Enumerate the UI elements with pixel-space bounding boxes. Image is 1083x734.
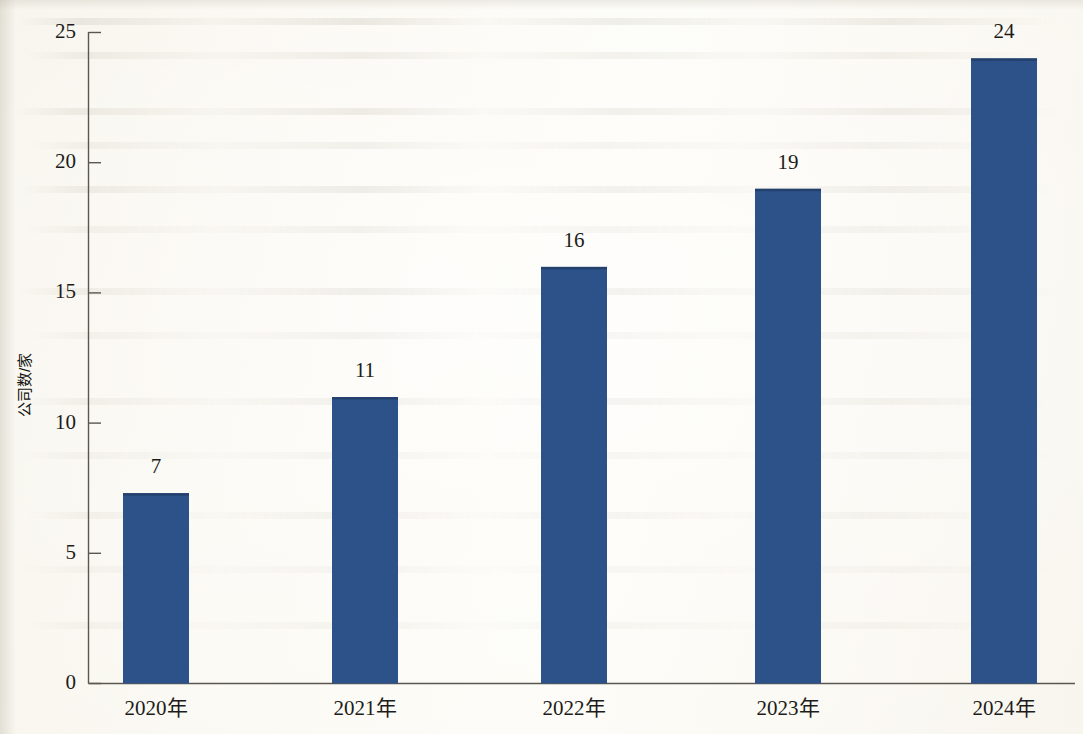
chart-plot-area: 0 5 10 15 20 25 公司数/家 xyxy=(0,0,1083,734)
bar-2021[interactable] xyxy=(332,397,398,683)
bar-rect-2022[interactable] xyxy=(541,267,607,684)
bar-2020[interactable] xyxy=(123,493,189,683)
x-label-2022: 2022年 xyxy=(543,696,606,720)
bar-value-label-2021: 11 xyxy=(355,358,375,382)
x-label-2024: 2024年 xyxy=(973,696,1036,720)
bar-rect-2021[interactable] xyxy=(332,397,398,683)
y-axis-title: 公司数/家 xyxy=(16,353,33,417)
x-label-2020: 2020年 xyxy=(125,696,188,720)
x-label-2023: 2023年 xyxy=(757,696,820,720)
y-tick-label-0: 0 xyxy=(66,670,77,694)
bar-top-edge-2021 xyxy=(332,397,398,399)
bar-rect-2020[interactable] xyxy=(123,493,189,683)
x-label-2021: 2021年 xyxy=(334,696,397,720)
bar-2022[interactable] xyxy=(541,267,607,684)
bar-top-edge-2020 xyxy=(123,493,189,495)
bar-2023[interactable] xyxy=(755,189,821,684)
y-axis-ticks xyxy=(89,33,102,684)
y-tick-label-10: 10 xyxy=(55,410,76,434)
y-tick-label-20: 20 xyxy=(55,149,76,173)
bar-value-label-2022: 16 xyxy=(564,228,585,252)
y-tick-label-15: 15 xyxy=(55,279,76,303)
bar-top-edge-2022 xyxy=(541,267,607,269)
bar-value-label-2023: 19 xyxy=(778,150,799,174)
bar-rect-2024[interactable] xyxy=(971,58,1037,683)
y-tick-label-25: 25 xyxy=(55,19,76,43)
bars-group xyxy=(123,58,1037,683)
bar-chart-figure: 0 5 10 15 20 25 公司数/家 xyxy=(0,0,1083,734)
bar-top-edge-2024 xyxy=(971,58,1037,60)
x-axis-category-labels: 2020年 2021年 2022年 2023年 2024年 xyxy=(125,696,1036,720)
y-axis-tick-labels: 0 5 10 15 20 25 xyxy=(55,19,76,694)
bar-2024[interactable] xyxy=(971,58,1037,683)
bar-value-label-2020: 7 xyxy=(151,454,162,478)
bar-value-label-2024: 24 xyxy=(994,19,1016,43)
bar-top-edge-2023 xyxy=(755,189,821,191)
bar-rect-2023[interactable] xyxy=(755,189,821,684)
y-tick-label-5: 5 xyxy=(66,540,77,564)
